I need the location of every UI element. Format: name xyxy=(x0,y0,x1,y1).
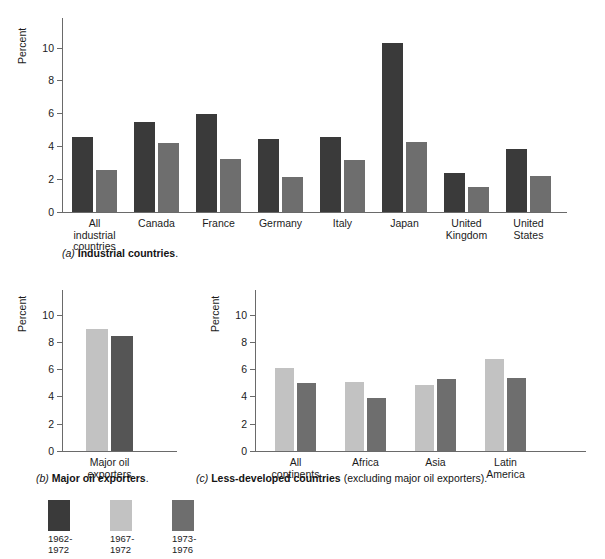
caption-b-bold: Major oil exporters xyxy=(52,472,146,484)
legend-item: 1962- 1972 xyxy=(48,500,72,555)
y-tick-label-b-6: 6 xyxy=(48,364,54,375)
y-tick-b-8 xyxy=(57,342,62,343)
legend-label: 1967- 1972 xyxy=(110,534,134,555)
y-tick-label-b-0: 0 xyxy=(48,446,54,457)
bar xyxy=(96,170,117,212)
y-tick-b-2 xyxy=(57,424,62,425)
y-tick-b-10 xyxy=(57,315,62,316)
bar xyxy=(275,368,294,451)
y-tick-label-c-6: 6 xyxy=(241,364,247,375)
x-category-label: United States xyxy=(479,218,579,241)
bar xyxy=(282,177,303,212)
y-tick-label-c-4: 4 xyxy=(241,391,247,402)
bar xyxy=(415,385,434,451)
caption-b-marker: (b) xyxy=(36,472,49,484)
y-tick-label-c-2: 2 xyxy=(241,418,247,429)
plot-area-b: Percent 0246810Major oil exporters xyxy=(62,290,167,451)
bar xyxy=(468,187,489,212)
y-tick-label-b-10: 10 xyxy=(42,309,54,320)
y-tick-c-2 xyxy=(250,424,255,425)
bar xyxy=(437,379,456,451)
bar xyxy=(297,383,316,451)
plot-area-a: Percent 0246810All industrial countriesC… xyxy=(62,18,577,212)
y-tick-a-8 xyxy=(57,80,62,81)
bar xyxy=(345,382,364,451)
legend-item: 1973- 1976 xyxy=(172,500,196,555)
y-axis-title-b: Percent xyxy=(16,296,28,332)
chart-panel-major-oil-exporters: Percent 0246810Major oil exporters (b) M… xyxy=(0,270,190,490)
x-axis-line-a-0 xyxy=(62,212,319,213)
y-tick-c-10 xyxy=(250,315,255,316)
bar xyxy=(530,176,551,212)
bar xyxy=(367,398,386,451)
bar xyxy=(506,149,527,212)
caption-c-marker: (c) xyxy=(196,472,208,484)
bar xyxy=(196,114,217,212)
y-tick-label-a-2: 2 xyxy=(48,174,54,185)
x-axis-line-c-0 xyxy=(255,451,586,452)
y-tick-a-6 xyxy=(57,113,62,114)
figure-legend: 1962- 19721967- 19721973- 1976 xyxy=(48,500,248,550)
y-tick-label-b-4: 4 xyxy=(48,391,54,402)
y-tick-c-4 xyxy=(250,396,255,397)
caption-a-tail: . xyxy=(175,247,178,259)
plot-area-c: Percent 0246810All continentsAfricaAsiaL… xyxy=(255,290,580,451)
bar xyxy=(158,143,179,212)
caption-a-marker: (a) xyxy=(62,247,75,259)
bar xyxy=(134,122,155,212)
bar xyxy=(344,160,365,212)
y-tick-b-4 xyxy=(57,396,62,397)
y-tick-a-2 xyxy=(57,179,62,180)
caption-c-bold: Less-developed countries xyxy=(211,472,341,484)
chart-panel-less-developed-countries: Percent 0246810All continentsAfricaAsiaL… xyxy=(190,270,605,490)
y-tick-c-8 xyxy=(250,342,255,343)
x-axis-line-b-0 xyxy=(62,451,177,452)
caption-b-tail: . xyxy=(146,472,149,484)
legend-swatch-1973-1976 xyxy=(172,500,194,531)
bar xyxy=(111,336,133,451)
bar xyxy=(220,159,241,212)
legend-label: 1973- 1976 xyxy=(172,534,196,555)
bar xyxy=(444,173,465,212)
y-axis-line-b xyxy=(62,290,63,451)
y-tick-a-4 xyxy=(57,146,62,147)
legend-label: 1962- 1972 xyxy=(48,534,72,555)
y-tick-label-b-2: 2 xyxy=(48,418,54,429)
y-tick-label-c-0: 0 xyxy=(241,446,247,457)
caption-c-tail: (excluding major oil exporters). xyxy=(341,472,487,484)
y-tick-b-6 xyxy=(57,369,62,370)
bar xyxy=(86,329,108,451)
y-tick-label-a-0: 0 xyxy=(48,207,54,218)
y-axis-title-c: Percent xyxy=(209,296,221,332)
y-tick-label-b-8: 8 xyxy=(48,337,54,348)
x-axis-line-a-1 xyxy=(310,212,567,213)
y-tick-a-10 xyxy=(57,48,62,49)
caption-a-bold: Industrial countries xyxy=(78,247,175,259)
y-axis-line-c xyxy=(255,290,256,451)
bar xyxy=(382,43,403,212)
caption-a: (a) Industrial countries. xyxy=(62,247,178,259)
bar xyxy=(320,137,341,212)
caption-b: (b) Major oil exporters. xyxy=(36,472,149,484)
bar xyxy=(72,137,93,212)
caption-c: (c) Less-developed countries (excluding … xyxy=(196,472,487,484)
legend-swatch-1962-1972 xyxy=(48,500,70,531)
legend-swatch-1967-1972 xyxy=(110,500,132,531)
y-axis-title-a: Percent xyxy=(16,28,28,64)
y-tick-label-a-6: 6 xyxy=(48,108,54,119)
bar xyxy=(485,359,504,451)
y-axis-line-a xyxy=(62,18,63,212)
y-tick-label-c-8: 8 xyxy=(241,337,247,348)
y-tick-c-6 xyxy=(250,369,255,370)
bar xyxy=(406,142,427,212)
chart-panel-industrial-countries: Percent 0246810All industrial countriesC… xyxy=(0,0,605,250)
bar xyxy=(507,378,526,451)
y-tick-label-a-10: 10 xyxy=(42,42,54,53)
y-tick-label-a-8: 8 xyxy=(48,75,54,86)
bar xyxy=(258,139,279,212)
legend-item: 1967- 1972 xyxy=(110,500,134,555)
y-tick-label-c-10: 10 xyxy=(235,309,247,320)
y-tick-label-a-4: 4 xyxy=(48,141,54,152)
